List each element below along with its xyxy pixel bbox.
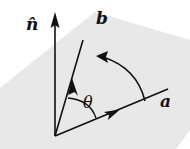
theta-label: θ [83, 93, 93, 112]
diagram-svg: n̂ b a θ [0, 0, 190, 149]
vector-diagram: n̂ b a θ [0, 0, 190, 149]
vector-a-label: a [160, 91, 171, 111]
normal-label: n̂ [26, 14, 38, 34]
vector-b-label: b [96, 8, 108, 28]
